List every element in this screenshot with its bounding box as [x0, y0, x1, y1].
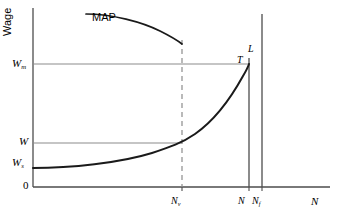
y-tick-label-w: W — [19, 136, 28, 147]
point-l-label: L — [248, 44, 254, 54]
origin-label: 0 — [23, 180, 29, 191]
x-tick-nv-base: N — [171, 195, 178, 206]
y-tick-ws-subscript: s — [21, 162, 24, 169]
y-axis-title: Wage — [2, 8, 13, 36]
x-axis-title: N — [311, 196, 318, 207]
x-tick-label-nv: Nv — [171, 196, 180, 206]
y-tick-ws-base: W — [12, 156, 21, 168]
x-tick-label-nf: Nf — [252, 196, 260, 206]
x-tick-label-n: N — [238, 196, 245, 206]
wage-employment-chart: Wage MAP Wm W Ws 0 T L Nv N Nf N — [0, 0, 338, 218]
point-t-label: T — [237, 55, 243, 65]
y-tick-wm-subscript: m — [21, 63, 26, 70]
chart-canvas — [0, 0, 338, 218]
map-curve-label: MAP — [92, 12, 116, 23]
y-tick-label-ws: Ws — [12, 157, 24, 168]
y-tick-wm-base: W — [12, 57, 21, 69]
y-tick-label-wm: Wm — [12, 58, 26, 69]
x-tick-nf-base: N — [252, 195, 259, 206]
x-tick-nv-subscript: v — [178, 200, 181, 207]
x-tick-nf-subscript: f — [259, 200, 261, 207]
labour-supply-curve — [33, 64, 249, 168]
